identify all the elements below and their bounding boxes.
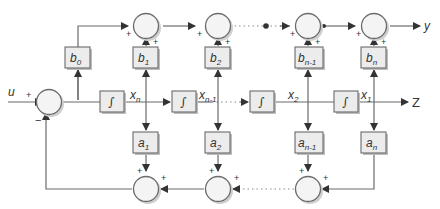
svg-text:+: + bbox=[356, 29, 361, 39]
svg-text:+: + bbox=[26, 90, 31, 100]
gain-block-a1: a1 bbox=[133, 132, 160, 155]
gain-block-b1: b1 bbox=[133, 47, 160, 70]
gain-block-b2: b2 bbox=[205, 47, 232, 70]
state-label-xn: xn bbox=[129, 88, 141, 104]
svg-text:+: + bbox=[323, 173, 328, 183]
gain-block-b0: b0 bbox=[65, 47, 92, 70]
gain-block-a2: a2 bbox=[205, 132, 232, 155]
svg-text:+: + bbox=[299, 166, 304, 176]
svg-text:+: + bbox=[290, 29, 295, 39]
state-label-x2: x2 bbox=[287, 88, 299, 104]
svg-text:∫: ∫ bbox=[258, 95, 265, 109]
state-label-x1: x1 bbox=[360, 88, 371, 104]
svg-text:∫: ∫ bbox=[180, 95, 187, 109]
gain-block-an: an bbox=[361, 132, 388, 155]
integrator-block-2: ∫ bbox=[172, 91, 198, 114]
svg-text:−: − bbox=[35, 114, 41, 126]
output-label-z: Z bbox=[412, 95, 420, 110]
bottom-sum-junction-2 bbox=[206, 177, 234, 205]
svg-text:+: + bbox=[161, 173, 166, 183]
integrator-block-1: ∫ bbox=[100, 91, 126, 114]
svg-text:∫: ∫ bbox=[108, 95, 115, 109]
svg-text:+: + bbox=[197, 29, 202, 39]
svg-text:+: + bbox=[137, 166, 142, 176]
input-label-u: u bbox=[8, 85, 15, 99]
block-diagram: b0 b1 b2 bn-1 bn ∫ ∫ ∫ ∫ bbox=[0, 0, 440, 209]
output-label-y: y bbox=[423, 19, 431, 33]
input-sum-junction bbox=[37, 90, 65, 118]
svg-text:∫: ∫ bbox=[342, 95, 349, 109]
bottom-sum-junction-1 bbox=[134, 177, 162, 205]
svg-text:+: + bbox=[315, 37, 320, 47]
bottom-sum-junction-n-1 bbox=[296, 177, 324, 205]
integrator-block-4: ∫ bbox=[334, 91, 360, 114]
b-to-sum-lines bbox=[146, 38, 374, 46]
gain-block-bn: bn bbox=[361, 47, 388, 70]
state-label-xn-1: xn-1 bbox=[198, 88, 217, 104]
gain-block-bn-1: bn-1 bbox=[295, 47, 325, 70]
svg-text:+: + bbox=[225, 37, 230, 47]
gain-block-an-1: an-1 bbox=[295, 132, 325, 155]
svg-text:+: + bbox=[234, 173, 239, 183]
svg-text:+: + bbox=[209, 166, 214, 176]
svg-text:+: + bbox=[381, 37, 386, 47]
integrator-block-3: ∫ bbox=[250, 91, 276, 114]
svg-text:+: + bbox=[153, 37, 158, 47]
svg-text:+: + bbox=[126, 29, 131, 39]
